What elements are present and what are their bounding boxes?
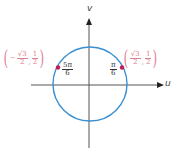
y-coordinate: 1 2 [32,51,38,66]
u-axis-arrow-icon [157,82,164,88]
x-coordinate: √3 2 [130,51,141,66]
close-paren: ) [40,48,45,68]
coordinate-label-pi-over-6: ( √3 2 , 1 2 ) [122,48,159,68]
y-denominator: 2 [33,59,37,66]
separator: , [142,58,144,68]
angle-denominator: 6 [65,70,69,77]
x-denominator: 2 [20,59,24,66]
angle-label-5pi-over-6: 5π 6 [62,62,73,77]
u-axis-label: u [165,78,171,88]
separator: , [29,58,31,68]
angle-denominator: 6 [111,70,115,77]
v-axis-arrow-icon [86,18,92,25]
close-paren: ) [153,48,158,68]
open-paren: ( [4,48,9,68]
unit-circle [53,47,127,121]
x-coordinate: √3 2 [17,51,28,66]
minus-sign: − [10,54,16,62]
y-coordinate: 1 2 [145,51,151,66]
y-denominator: 2 [146,59,150,66]
v-axis-label: v [87,3,92,13]
angle-label-pi-over-6: π 6 [110,62,117,77]
x-denominator: 2 [133,59,137,66]
point-5pi-over-6 [56,65,60,69]
coordinate-label-5pi-over-6: ( − √3 2 , 1 2 ) [2,48,46,68]
unit-circle-diagram [0,0,179,151]
open-paren: ( [124,48,129,68]
